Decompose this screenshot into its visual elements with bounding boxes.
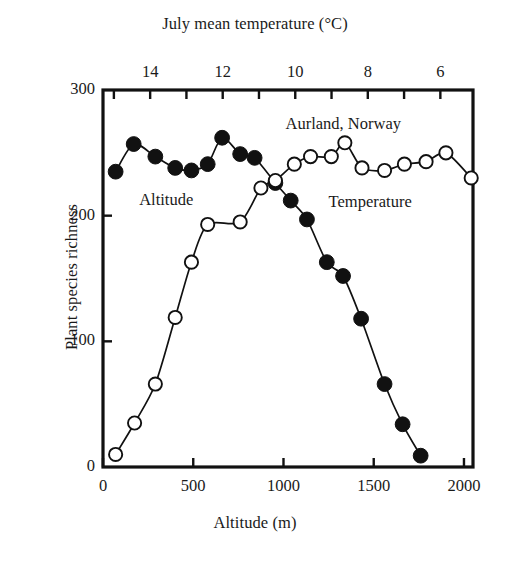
data-point-temperature [325,150,338,163]
chart-figure: July mean temperature (°C) Altitude (m) … [0,0,510,562]
data-point-temperature [169,311,182,324]
data-point-temperature [254,181,267,194]
data-point-temperature [398,158,411,171]
data-point-temperature [109,448,122,461]
data-point-temperature [465,171,478,184]
data-point-temperature [149,377,162,390]
data-point-altitude [413,448,428,463]
data-markers [108,130,478,463]
data-point-altitude [184,163,199,178]
series-curve-temperature [116,143,472,455]
data-point-altitude [354,311,369,326]
data-point-altitude [233,147,248,162]
data-point-temperature [338,136,351,149]
data-point-altitude [283,193,298,208]
data-point-temperature [201,218,214,231]
data-point-temperature [355,161,368,174]
data-point-altitude [377,377,392,392]
plot-area [0,0,510,562]
data-point-altitude [148,149,163,164]
data-point-altitude [200,157,215,172]
data-point-temperature [288,158,301,171]
data-point-altitude [319,255,334,270]
data-point-temperature [439,146,452,159]
data-point-temperature [304,150,317,163]
data-point-temperature [269,174,282,187]
trend-curves [116,138,472,456]
data-point-temperature [419,155,432,168]
data-point-altitude [395,417,410,432]
plot-frame [103,90,473,467]
data-point-temperature [378,164,391,177]
data-point-temperature [128,416,141,429]
data-point-temperature [234,215,247,228]
axis-ticks [103,90,464,467]
data-point-temperature [185,256,198,269]
data-point-altitude [215,130,230,145]
data-point-altitude [126,137,141,152]
data-point-altitude [168,161,183,176]
data-point-altitude [108,164,123,179]
data-point-altitude [247,150,262,165]
data-point-altitude [336,269,351,284]
data-point-altitude [300,212,315,227]
